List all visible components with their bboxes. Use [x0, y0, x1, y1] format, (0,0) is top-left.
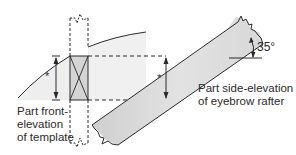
dimension-marker-rafter: * [157, 72, 161, 84]
label-front-line-3: of template [17, 131, 74, 144]
angle-label: 35° [257, 40, 275, 54]
label-front-line-2: elevation [17, 118, 74, 131]
eyebrow-rafter-diagram: * * 35° Part front- elevation of templat… [0, 0, 296, 155]
label-front-line-1: Part front- [17, 105, 74, 118]
dimension-marker-template: * [45, 70, 49, 82]
break-symbol-top [70, 14, 88, 23]
label-side-line-1: Part side-elevation [198, 82, 293, 95]
eyebrow-shaded-region [18, 56, 70, 100]
label-side-line-2: of eyebrow rafter [198, 95, 293, 108]
label-front-elevation: Part front- elevation of template [17, 105, 74, 144]
label-side-elevation: Part side-elevation of eyebrow rafter [198, 82, 293, 108]
eyebrow-shaded-region-right [88, 32, 146, 100]
